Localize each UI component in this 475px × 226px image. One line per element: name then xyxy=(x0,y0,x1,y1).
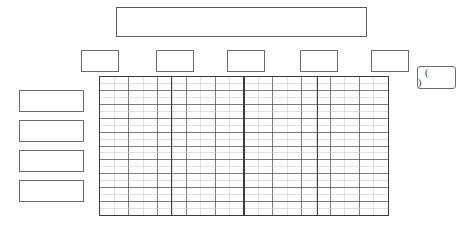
header-chip-2[interactable] xyxy=(156,50,194,72)
paren-note-box[interactable]: ( ) xyxy=(417,66,456,89)
row-label-4-text xyxy=(20,181,83,187)
row-label-2[interactable] xyxy=(19,120,84,142)
header-chip-4[interactable] xyxy=(300,50,338,72)
form-page: ( ) xyxy=(0,0,475,226)
row-label-2-text xyxy=(20,121,83,127)
grid-lines xyxy=(100,77,388,215)
header-chip-5[interactable] xyxy=(371,50,409,72)
row-label-1[interactable] xyxy=(19,90,84,112)
data-grid[interactable] xyxy=(99,76,389,216)
row-label-3[interactable] xyxy=(19,150,84,172)
row-label-3-text xyxy=(20,151,83,157)
title-bar[interactable] xyxy=(116,7,367,37)
header-chip-1[interactable] xyxy=(81,50,119,72)
header-chip-3[interactable] xyxy=(227,50,265,72)
row-label-4[interactable] xyxy=(19,180,84,202)
row-label-1-text xyxy=(20,91,83,97)
paren-note-text: ( ) xyxy=(418,68,455,88)
title-bar-value xyxy=(117,8,366,20)
